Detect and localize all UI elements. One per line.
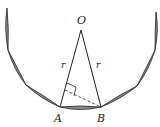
label-r-right: r	[96, 60, 101, 70]
segment-2	[8, 50, 26, 85]
perpendicular-dashed	[65, 90, 101, 107]
label-b: B	[96, 112, 105, 125]
segment-1	[6, 8, 9, 50]
segment-ab	[60, 106, 101, 110]
segment-7	[155, 12, 157, 50]
label-r-left: r	[61, 60, 66, 70]
label-o: O	[77, 14, 86, 27]
label-a: A	[53, 112, 62, 125]
segment-6	[137, 50, 155, 86]
circle-segments-diagram: O A B r r	[0, 0, 160, 127]
segment-3	[26, 85, 60, 107]
segment-5	[101, 86, 137, 107]
right-angle-mark	[67, 83, 76, 96]
